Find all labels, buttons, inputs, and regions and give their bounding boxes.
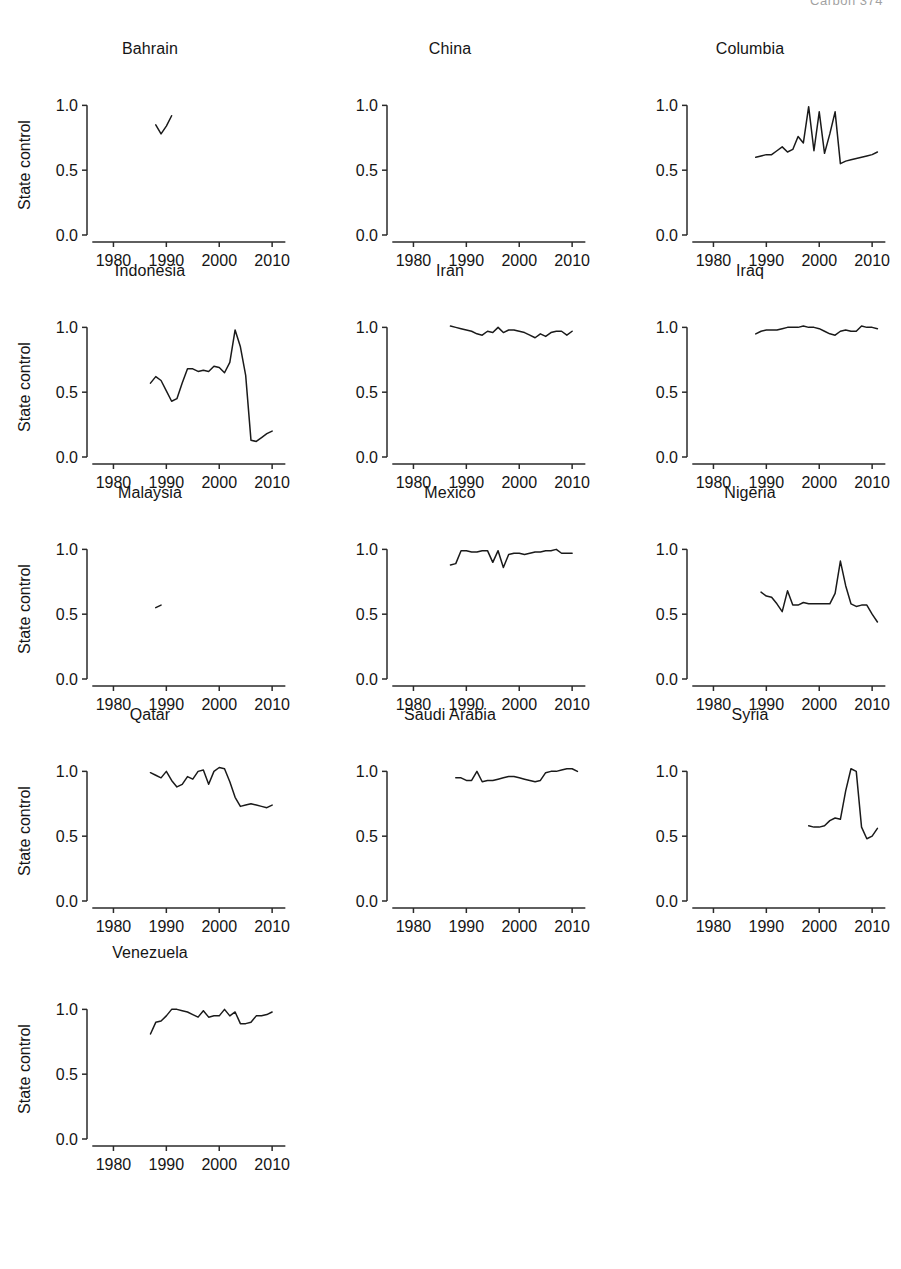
y-tick-label: 0.0 bbox=[356, 893, 378, 910]
y-tick-label: 0.0 bbox=[656, 227, 678, 244]
x-tick-label: 1990 bbox=[149, 918, 185, 935]
y-tick-label: 0.5 bbox=[656, 384, 678, 401]
y-tick-label: 0.0 bbox=[356, 671, 378, 688]
panel-venezuela: Venezuela0.00.51.01980199020002010State … bbox=[0, 944, 300, 1174]
y-tick-label: 0.5 bbox=[656, 162, 678, 179]
y-tick-label: 0.0 bbox=[656, 893, 678, 910]
y-tick-label: 0.0 bbox=[56, 671, 78, 688]
x-tick-label: 2010 bbox=[854, 918, 890, 935]
data-line-malaysia bbox=[156, 605, 161, 608]
data-line-mexico bbox=[450, 549, 572, 567]
x-tick-label: 2000 bbox=[801, 918, 837, 935]
panel-plot: 0.00.51.01980199020002010 bbox=[300, 484, 600, 714]
y-tick-label: 0.5 bbox=[356, 162, 378, 179]
panel-plot: 0.00.51.01980199020002010State control bbox=[0, 40, 300, 270]
y-tick-label: 0.5 bbox=[656, 606, 678, 623]
y-tick-label: 0.0 bbox=[356, 227, 378, 244]
y-tick-label: 0.5 bbox=[356, 384, 378, 401]
y-tick-label: 0.0 bbox=[656, 449, 678, 466]
x-tick-label: 2000 bbox=[501, 918, 537, 935]
y-tick-label: 0.5 bbox=[56, 1066, 78, 1083]
panel-china: China0.00.51.01980199020002010 bbox=[300, 40, 600, 270]
y-tick-label: 1.0 bbox=[356, 97, 378, 114]
data-line-bahrain bbox=[156, 116, 172, 134]
y-tick-label: 1.0 bbox=[656, 319, 678, 336]
panel-plot: 0.00.51.01980199020002010 bbox=[600, 484, 900, 714]
y-tick-label: 0.5 bbox=[56, 162, 78, 179]
panel-plot: 0.00.51.01980199020002010 bbox=[300, 262, 600, 492]
y-tick-label: 1.0 bbox=[656, 97, 678, 114]
y-axis-title: State control bbox=[16, 1024, 33, 1114]
figure-page: Carbon 374 Bahrain0.00.51.01980199020002… bbox=[0, 0, 901, 1269]
x-tick-label: 1980 bbox=[96, 918, 132, 935]
small-multiples-grid: Bahrain0.00.51.01980199020002010State co… bbox=[0, 16, 901, 1269]
y-tick-label: 1.0 bbox=[656, 763, 678, 780]
panel-qatar: Qatar0.00.51.01980199020002010State cont… bbox=[0, 706, 300, 936]
panel-iran: Iran0.00.51.01980199020002010 bbox=[300, 262, 600, 492]
running-head: Carbon 374 bbox=[0, 0, 901, 16]
data-line-columbia bbox=[756, 107, 878, 164]
panel-columbia: Columbia0.00.51.01980199020002010 bbox=[600, 40, 900, 270]
y-tick-label: 0.5 bbox=[56, 384, 78, 401]
panel-plot: 0.00.51.01980199020002010State controlYe… bbox=[0, 944, 300, 1174]
y-tick-label: 1.0 bbox=[56, 319, 78, 336]
y-tick-label: 0.5 bbox=[656, 828, 678, 845]
panel-indonesia: Indonesia0.00.51.01980199020002010State … bbox=[0, 262, 300, 492]
panel-bahrain: Bahrain0.00.51.01980199020002010State co… bbox=[0, 40, 300, 270]
y-tick-label: 0.0 bbox=[56, 893, 78, 910]
data-line-venezuela bbox=[150, 1009, 272, 1034]
x-tick-label: 1980 bbox=[396, 918, 432, 935]
running-head-text: Carbon 374 bbox=[810, 0, 883, 8]
y-axis-title: State control bbox=[16, 564, 33, 654]
data-line-iran bbox=[450, 326, 572, 338]
y-tick-label: 0.5 bbox=[56, 828, 78, 845]
panel-plot: 0.00.51.01980199020002010State control bbox=[0, 484, 300, 714]
panel-mexico: Mexico0.00.51.01980199020002010 bbox=[300, 484, 600, 714]
x-tick-label: 2010 bbox=[554, 918, 590, 935]
x-tick-label: 1990 bbox=[749, 918, 785, 935]
y-tick-label: 1.0 bbox=[56, 1001, 78, 1018]
y-tick-label: 0.0 bbox=[356, 449, 378, 466]
panel-plot: 0.00.51.01980199020002010Year bbox=[300, 706, 600, 936]
y-axis-title: State control bbox=[16, 342, 33, 432]
data-line-syria bbox=[809, 769, 878, 839]
x-tick-label: 2010 bbox=[254, 918, 290, 935]
y-tick-label: 0.5 bbox=[356, 606, 378, 623]
x-tick-label: 2000 bbox=[201, 1156, 237, 1173]
y-tick-label: 1.0 bbox=[56, 763, 78, 780]
y-axis-title: State control bbox=[16, 120, 33, 210]
y-tick-label: 0.0 bbox=[56, 449, 78, 466]
y-tick-label: 0.0 bbox=[56, 227, 78, 244]
x-tick-label: 1990 bbox=[149, 1156, 185, 1173]
y-tick-label: 1.0 bbox=[56, 541, 78, 558]
panel-nigeria: Nigeria0.00.51.01980199020002010 bbox=[600, 484, 900, 714]
panel-plot: 0.00.51.01980199020002010State control bbox=[0, 262, 300, 492]
y-tick-label: 0.5 bbox=[56, 606, 78, 623]
x-tick-label: 2000 bbox=[201, 918, 237, 935]
panel-plot: 0.00.51.01980199020002010State control bbox=[0, 706, 300, 936]
y-axis-title: State control bbox=[16, 786, 33, 876]
data-line-iraq bbox=[756, 326, 878, 335]
x-tick-label: 2010 bbox=[254, 1156, 290, 1173]
y-tick-label: 0.0 bbox=[656, 671, 678, 688]
panel-plot: 0.00.51.01980199020002010 bbox=[300, 40, 600, 270]
panel-plot: 0.00.51.01980199020002010Year bbox=[600, 706, 900, 936]
data-line-indonesia bbox=[150, 330, 272, 441]
y-tick-label: 1.0 bbox=[656, 541, 678, 558]
y-tick-label: 0.0 bbox=[56, 1131, 78, 1148]
panel-malaysia: Malaysia0.00.51.01980199020002010State c… bbox=[0, 484, 300, 714]
y-tick-label: 0.5 bbox=[356, 828, 378, 845]
x-tick-label: 1980 bbox=[696, 918, 732, 935]
y-tick-label: 1.0 bbox=[56, 97, 78, 114]
y-tick-label: 1.0 bbox=[356, 541, 378, 558]
data-line-qatar bbox=[150, 767, 272, 807]
x-tick-label: 1980 bbox=[96, 1156, 132, 1173]
panel-saudi-arabia: Saudi Arabia0.00.51.01980199020002010Yea… bbox=[300, 706, 600, 936]
data-line-saudi-arabia bbox=[456, 769, 578, 782]
data-line-nigeria bbox=[761, 561, 877, 622]
panel-plot: 0.00.51.01980199020002010 bbox=[600, 262, 900, 492]
panel-syria: Syria0.00.51.01980199020002010Year bbox=[600, 706, 900, 936]
panel-iraq: Iraq0.00.51.01980199020002010 bbox=[600, 262, 900, 492]
panel-plot: 0.00.51.01980199020002010 bbox=[600, 40, 900, 270]
y-tick-label: 1.0 bbox=[356, 319, 378, 336]
